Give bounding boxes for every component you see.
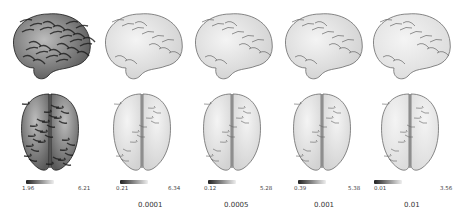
brain-superior-view xyxy=(364,88,456,174)
threshold-caption: 0.0005 xyxy=(224,201,249,209)
brain-superior-view xyxy=(186,88,278,174)
colorbar-min-label: 0.39 xyxy=(294,185,306,191)
brain-superior-view xyxy=(276,88,368,174)
brain-lateral-view xyxy=(276,6,368,84)
panel-p1: 1.966.21 xyxy=(4,0,96,215)
colorbar-max-label: 5.28 xyxy=(260,185,272,191)
colorbar-min-label: 0.12 xyxy=(204,185,216,191)
colorbar-max-label: 5.38 xyxy=(348,185,360,191)
panel-p5: 0.013.560.01 xyxy=(364,0,456,215)
colorbar xyxy=(208,180,236,184)
threshold-caption: 0.001 xyxy=(314,201,334,209)
colorbar-min-label: 0.01 xyxy=(374,185,386,191)
colorbar-max-label: 6.21 xyxy=(78,185,90,191)
panel-p3: 0.125.280.0005 xyxy=(186,0,278,215)
colorbar-max-label: 6.34 xyxy=(168,185,180,191)
brain-superior-view xyxy=(4,88,96,174)
colorbar xyxy=(298,180,326,184)
panel-p2: 0.216.340.0001 xyxy=(96,0,188,215)
colorbar-min-label: 0.21 xyxy=(116,185,128,191)
threshold-caption: 0.01 xyxy=(404,201,420,209)
colorbar xyxy=(374,180,402,184)
brain-lateral-view xyxy=(96,6,188,84)
brain-superior-view xyxy=(96,88,188,174)
threshold-caption: 0.0001 xyxy=(138,201,163,209)
brain-lateral-view xyxy=(186,6,278,84)
brain-lateral-view xyxy=(4,6,96,84)
colorbar-max-label: 3.56 xyxy=(440,185,452,191)
colorbar xyxy=(26,180,54,184)
colorbar-min-label: 1.96 xyxy=(22,185,34,191)
panel-p4: 0.395.380.001 xyxy=(276,0,368,215)
colorbar xyxy=(120,180,148,184)
brain-lateral-view xyxy=(364,6,456,84)
